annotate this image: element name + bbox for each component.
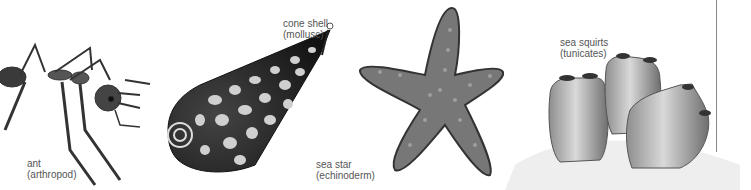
label-cone-shell-group: (mollusc) <box>283 29 328 40</box>
cone-shell-illustration <box>168 23 333 172</box>
sea-squirts-illustration <box>505 53 740 190</box>
label-ant-group: (arthropod) <box>27 169 76 180</box>
sea-star-illustration <box>360 8 503 175</box>
label-sea-squirts: sea squirts (tunicates) <box>560 37 608 59</box>
label-sea-squirts-name: sea squirts <box>560 37 608 48</box>
label-sea-star: sea star (echinoderm) <box>316 159 375 181</box>
label-ant-name: ant <box>27 158 76 169</box>
illustration-canvas <box>0 0 751 190</box>
label-sea-star-name: sea star <box>316 159 375 170</box>
label-sea-squirts-group: (tunicates) <box>560 48 608 59</box>
label-cone-shell-name: cone shell <box>283 18 328 29</box>
label-cone-shell: cone shell (mollusc) <box>283 18 328 40</box>
page-divider-line <box>716 0 717 152</box>
label-ant: ant (arthropod) <box>27 158 76 180</box>
label-sea-star-group: (echinoderm) <box>316 170 375 181</box>
